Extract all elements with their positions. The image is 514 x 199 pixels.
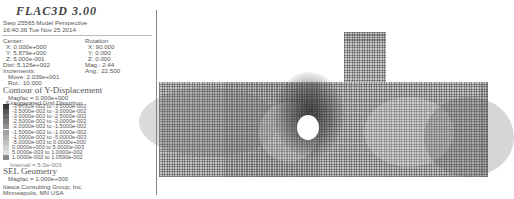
legend-panel: FLAC3D 3.00 Step 25565 Model Perspective… — [0, 0, 156, 199]
legend-swatch — [3, 155, 9, 160]
contour-legend: -3.6782e-002 to -3.5000e-002 -3.5000e-00… — [3, 104, 86, 160]
mesh-plot — [159, 82, 488, 177]
contour-zone — [139, 87, 279, 157]
mesh-tower — [344, 32, 386, 83]
angle-increment: Ang.: 22.500 — [85, 67, 120, 74]
separator — [2, 35, 152, 36]
timestamp: 16:40:36 Tue Nov 25 2014 — [3, 26, 76, 33]
contour-zone — [424, 97, 514, 177]
step-info: Step 25565 Model Perspective — [3, 19, 87, 26]
company-location: Minneapolis, MN USA — [3, 189, 64, 196]
app-title: FLAC3D 3.00 — [16, 4, 97, 19]
tunnel-opening — [297, 115, 319, 140]
legend-item: 1.0000e-002 to 1.0590e-002 — [3, 155, 86, 160]
geometry-magfac: Magfac = 1.000e+000 — [8, 175, 68, 182]
